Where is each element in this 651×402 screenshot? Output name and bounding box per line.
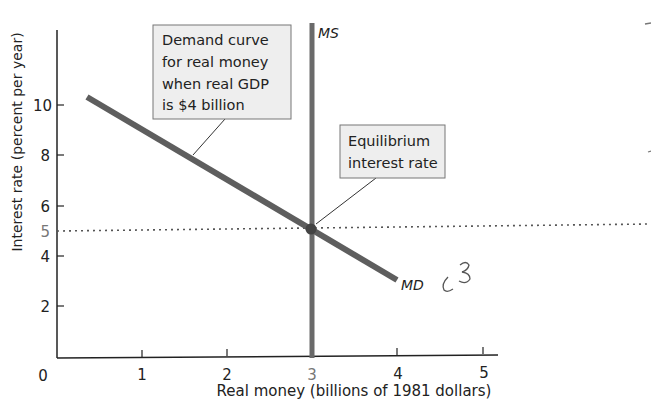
handwritten-mark [443, 263, 470, 292]
y-ticks [57, 105, 64, 306]
ms-label: MS [318, 25, 339, 41]
y-tick-4: 4 [40, 248, 50, 266]
x-tick-1: 1 [137, 366, 147, 384]
equilibrium-rate-dotted-line [57, 224, 651, 231]
x-tick-5: 5 [479, 364, 489, 382]
y-tick-5: 5 [40, 223, 50, 241]
y-tick-8: 8 [40, 147, 50, 165]
x-axis-label: Real money (billions of 1981 dollars) [217, 382, 492, 400]
x-tick-4: 4 [393, 365, 403, 383]
y-tick-2: 2 [40, 298, 50, 316]
money-market-chart: 10 8 6 5 4 2 0 1 2 3 4 5 Real money (bil… [0, 0, 651, 402]
callout-line-equilibrium [316, 178, 376, 224]
x-axis [57, 355, 498, 358]
md-label: MD [401, 277, 424, 293]
callout-line-md [193, 119, 225, 155]
y-axis-label: Interest rate (percent per year) [9, 32, 25, 251]
y-tick-6: 6 [40, 198, 50, 216]
equilibrium-point [306, 224, 317, 235]
origin-label: 0 [38, 367, 48, 385]
md-curve [87, 97, 397, 280]
margin-marks [645, 23, 651, 152]
y-tick-10: 10 [33, 97, 52, 115]
